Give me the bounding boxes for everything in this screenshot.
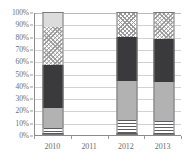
y-axis: 0%10%20%30%40%50%60%70%80%90%100% <box>0 13 33 136</box>
y-tick-label: 40% <box>16 83 29 91</box>
bar-segment[interactable] <box>116 81 137 120</box>
y-tick-label: 30% <box>16 95 29 103</box>
bar-slot-2011 <box>72 13 109 135</box>
y-tick-label: 80% <box>16 34 29 42</box>
bar-segment[interactable] <box>153 82 174 121</box>
bar-segment[interactable] <box>43 12 64 27</box>
stacked-bar-chart: 0%10%20%30%40%50%60%70%80%90%100% 201020… <box>0 0 184 167</box>
bar-segment[interactable] <box>153 133 174 135</box>
bar-segment[interactable] <box>116 37 137 81</box>
x-tick-mark <box>108 136 109 139</box>
bar-segment[interactable] <box>43 108 64 128</box>
bar-segment[interactable] <box>153 121 174 132</box>
bar-segment[interactable] <box>116 120 137 132</box>
bar-segment[interactable] <box>116 133 137 135</box>
bar-segment[interactable] <box>153 12 174 39</box>
bar-stack[interactable] <box>43 13 64 135</box>
y-tick-mark <box>30 13 33 14</box>
bars-layer <box>35 13 181 135</box>
bar-segment[interactable] <box>43 27 64 65</box>
y-tick-label: 60% <box>16 58 29 66</box>
bar-segment[interactable] <box>43 128 64 133</box>
bar-slot-2013 <box>145 13 182 135</box>
bar-slot-2012 <box>109 13 146 135</box>
x-tick-mark <box>71 136 72 139</box>
bar-slot-2010 <box>35 13 72 135</box>
y-tick-mark <box>30 99 33 100</box>
y-tick-label: 0% <box>19 132 29 140</box>
x-tick-mark <box>181 136 182 139</box>
bar-segment[interactable] <box>43 133 64 135</box>
bar-segment[interactable] <box>153 39 174 82</box>
y-tick-label: 100% <box>12 9 29 17</box>
bar-segment[interactable] <box>43 65 64 108</box>
y-tick-mark <box>30 123 33 124</box>
y-tick-mark <box>30 74 33 75</box>
x-axis: 2010201120122013 <box>34 136 181 158</box>
y-tick-label: 90% <box>16 22 29 30</box>
x-tick-label-2012: 2012 <box>118 143 134 151</box>
x-tick-label-2011: 2011 <box>81 143 96 151</box>
y-tick-mark <box>30 86 33 87</box>
y-tick-label: 70% <box>16 46 29 54</box>
x-tick-mark <box>34 136 35 139</box>
y-tick-mark <box>30 136 33 137</box>
x-tick-mark <box>144 136 145 139</box>
y-tick-label: 50% <box>16 71 29 79</box>
bar-stack[interactable] <box>153 13 174 135</box>
y-tick-mark <box>30 25 33 26</box>
plot-area <box>34 13 181 136</box>
y-tick-mark <box>30 37 33 38</box>
bar-stack[interactable] <box>116 13 137 135</box>
x-tick-label-2013: 2013 <box>155 143 171 151</box>
y-tick-mark <box>30 111 33 112</box>
y-tick-mark <box>30 62 33 63</box>
x-tick-label-2010: 2010 <box>45 143 61 151</box>
y-tick-label: 20% <box>16 108 29 116</box>
y-tick-mark <box>30 49 33 50</box>
y-tick-label: 10% <box>16 120 29 128</box>
bar-segment[interactable] <box>116 12 137 37</box>
